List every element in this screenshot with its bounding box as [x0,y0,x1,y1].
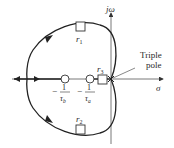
annotation-line2: pole [146,60,162,70]
svg-text:τa: τa [85,94,91,104]
svg-text:1: 1 [62,83,66,92]
arrow-icon-left [14,76,20,82]
svg-text:τb: τb [60,94,66,104]
root-r2-marker [76,125,85,134]
annotation-pointer [113,68,135,78]
root-locus-diagram: jω σ Triple pole r1 r2 r3 − 1 τb − 1 τa [0,0,174,148]
locus-lower-branch [27,79,116,135]
annotation-line1: Triple [140,50,162,60]
sigma-axis-label: σ [156,83,161,93]
root-r1-marker [76,22,85,31]
svg-text:−: − [77,86,82,96]
root-r3-label: r3 [97,64,104,75]
jw-axis-label: jω [105,4,115,14]
zero-a-marker [86,75,94,83]
root-r1-label: r1 [76,34,83,45]
root-r2-label: r2 [76,114,83,125]
zero-b-label: − 1 τb [52,83,70,104]
arrow-icon-right [34,76,40,82]
zero-a-label: − 1 τa [77,83,95,104]
zero-b-marker [61,75,69,83]
svg-text:−: − [52,86,57,96]
svg-text:1: 1 [87,83,91,92]
root-r3-marker [98,75,107,84]
